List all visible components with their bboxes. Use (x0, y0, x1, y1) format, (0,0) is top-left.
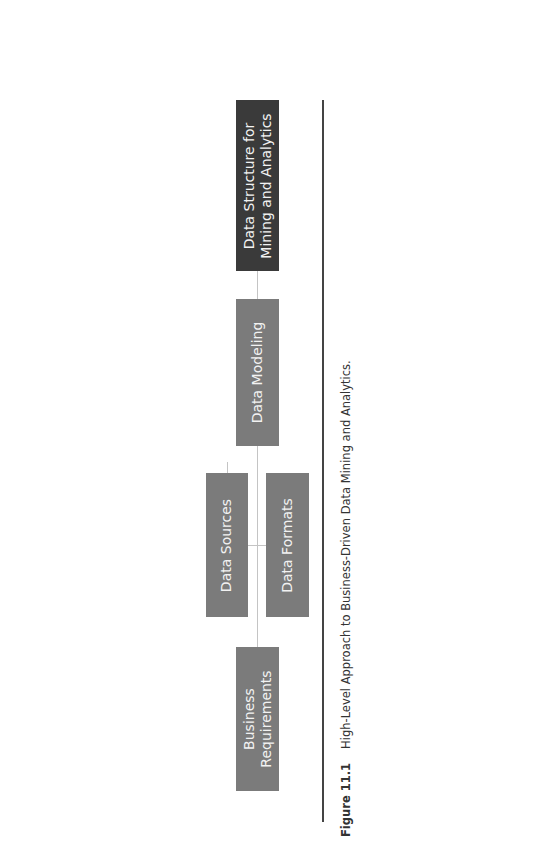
figure-caption: Figure 11.1High-Level Approach to Busine… (339, 360, 353, 837)
node-data-structure: Data Structure for Mining and Analytics (236, 100, 279, 271)
node-label: Data Sources (219, 498, 236, 591)
figure-number: Figure 11.1 (339, 763, 353, 837)
node-data-modeling: Data Modeling (236, 299, 279, 446)
caption-rule (322, 100, 324, 822)
node-data-formats: Data Formats (266, 473, 309, 617)
figure-caption-text: High-Level Approach to Business-Driven D… (339, 360, 353, 749)
node-business-requirements: Business Requirements (236, 647, 279, 791)
node-label: Data Structure for Mining and Analytics (241, 113, 275, 258)
node-label: Business Requirements (241, 670, 275, 767)
node-data-sources: Data Sources (206, 473, 248, 617)
connector-sources (227, 462, 228, 473)
node-label: Data Modeling (249, 322, 266, 424)
node-label: Data Formats (279, 498, 296, 593)
